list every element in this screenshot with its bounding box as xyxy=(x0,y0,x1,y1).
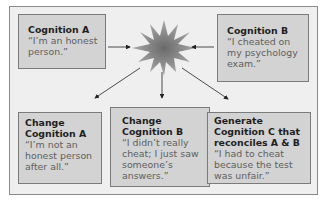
change-cognition-a-quote: “I’m not an honest person after all.” xyxy=(25,139,95,172)
cognition-a-title: Cognition A xyxy=(28,24,99,35)
cognition-b-box: Cognition B “I cheated on my psychology … xyxy=(217,14,309,82)
cognition-b-title: Cognition B xyxy=(227,25,302,36)
change-cognition-a-box: Change Cognition A “I’m not an honest pe… xyxy=(18,112,102,184)
change-cognition-b-title: Change Cognition B xyxy=(122,115,203,137)
change-cognition-b-box: Change Cognition B “I didn’t really chea… xyxy=(110,107,210,187)
generate-cognition-c-quote: “I had to cheat because the test was unf… xyxy=(214,148,304,181)
change-cognition-b-quote: “I didn’t really cheat; I just saw someo… xyxy=(122,137,203,181)
cognition-a-quote: “I’m an honest person.” xyxy=(28,35,99,57)
cognition-a-box: Cognition A “I’m an honest person.” xyxy=(18,14,106,69)
cognition-b-quote: “I cheated on my psychology exam.” xyxy=(227,36,302,69)
change-cognition-a-title: Change Cognition A xyxy=(25,117,95,139)
generate-cognition-c-title: Generate Cognition C that reconciles A &… xyxy=(214,115,304,148)
generate-cognition-c-box: Generate Cognition C that reconciles A &… xyxy=(207,112,311,184)
